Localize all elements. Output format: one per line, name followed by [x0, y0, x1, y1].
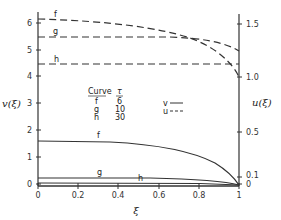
left-axis-title: v(ξ): [2, 98, 21, 109]
u-h-label: h: [54, 55, 59, 64]
x-tick-labels: 0 0.2 0.4 0.6 0.8 1: [35, 191, 241, 200]
x-axis-title: ξ: [133, 205, 139, 216]
x-tick-label: 0: [35, 191, 40, 200]
u-g-label: g: [53, 27, 58, 36]
line-style-legend: v u: [163, 99, 183, 116]
right-tick-label: 1.5: [246, 20, 259, 29]
v-g-label: g: [97, 168, 102, 177]
left-tick-labels: 0 1 2 3 4 5 6: [27, 19, 32, 189]
left-tick-label: 5: [27, 46, 32, 55]
x-tick-label: 0.2: [72, 191, 85, 200]
left-tick-label: 0: [27, 180, 32, 189]
legend-row-h: h: [94, 113, 99, 122]
left-tick-label: 3: [27, 99, 32, 108]
x-tick-label: 1: [236, 191, 241, 200]
right-tick-label: 0: [246, 180, 251, 189]
right-axis-title: u(ξ): [252, 97, 272, 108]
legend-table: Curve τ f 6 g 10 h 30: [88, 87, 125, 122]
x-tick-label: 0.4: [112, 191, 125, 200]
v-f-label: f: [97, 131, 100, 140]
x-tick-label: 0.6: [153, 191, 166, 200]
right-tick-label: 1.0: [246, 73, 259, 82]
u-f-label: f: [54, 10, 57, 19]
legend-row-h-tau: 30: [115, 113, 125, 122]
legend-header-tau: τ: [117, 87, 122, 96]
right-tick-label: 0.5: [246, 128, 259, 137]
v-h-label: h: [138, 174, 143, 183]
left-tick-label: 1: [27, 153, 32, 162]
left-tick-label: 6: [27, 19, 32, 28]
left-tick-label: 2: [27, 126, 32, 135]
u-curves: [38, 19, 239, 77]
u-g-curve: [38, 37, 239, 51]
u-f-curve: [38, 19, 239, 77]
v-h-curve: [38, 183, 239, 185]
chart: 0 0.2 0.4 0.6 0.8 1 0 1 2 3 4 5 6 0 0.1 …: [0, 0, 281, 220]
right-tick-label: 0.1: [246, 171, 259, 180]
legend-u-label: u: [163, 107, 168, 116]
legend-header-curve: Curve: [88, 87, 112, 96]
x-tick-label: 0.8: [193, 191, 206, 200]
left-tick-label: 4: [27, 72, 32, 81]
